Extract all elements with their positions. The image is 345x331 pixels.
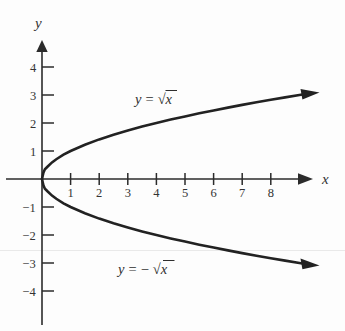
- y-tick-label-2: 2: [30, 117, 36, 131]
- y-axis-label: y: [33, 15, 42, 31]
- x-tick-label-4: 4: [153, 186, 160, 200]
- annotation-upper-equals: =: [145, 91, 153, 107]
- y-tick-label-neg3: −3: [22, 257, 35, 271]
- annotation-upper-lhs: y: [133, 91, 142, 107]
- y-tick-label-4: 4: [30, 61, 37, 75]
- annotation-lower-sign: −: [141, 261, 149, 277]
- x-tick-labels-group: 1 2 3 4 5 6 7 8: [67, 186, 273, 200]
- x-tick-label-1: 1: [67, 186, 73, 200]
- annotation-lower-radicand: x: [160, 261, 168, 277]
- x-tick-label-5: 5: [182, 186, 188, 200]
- x-tick-label-7: 7: [239, 186, 245, 200]
- y-tick-label-neg1: −1: [22, 201, 35, 215]
- curve-lower-arrowhead: [301, 259, 320, 270]
- annotation-lower-equation: y=−√x: [116, 261, 168, 277]
- y-tick-label-neg2: −2: [22, 229, 35, 243]
- annotation-upper-radical: √: [158, 91, 166, 107]
- x-tick-label-8: 8: [268, 186, 274, 200]
- x-axis-label: x: [321, 171, 329, 187]
- x-tick-label-6: 6: [210, 186, 216, 200]
- x-tick-label-2: 2: [96, 186, 102, 200]
- curve-lower-group: [42, 179, 320, 269]
- axes-group: [6, 40, 313, 325]
- y-tick-label-3: 3: [30, 89, 36, 103]
- annotation-lower-group: y=−√x: [116, 261, 175, 278]
- curve-upper-group: [42, 89, 320, 179]
- curve-upper-arrowhead: [301, 89, 320, 100]
- annotation-lower-lhs: y: [116, 261, 125, 277]
- y-tick-label-1: 1: [30, 145, 36, 159]
- annotation-upper-radicand: x: [165, 91, 173, 107]
- annotation-upper-equation: y=√x: [133, 91, 173, 107]
- y-axis-arrowhead: [36, 40, 47, 52]
- graph-canvas: 1 2 3 4 5 6 7 8 4 3 2 1 −1 −2 −3: [0, 0, 345, 331]
- y-tick-label-neg4: −4: [22, 285, 36, 299]
- curve-upper-sqrt: [42, 94, 307, 179]
- square-root-graph-figure: 1 2 3 4 5 6 7 8 4 3 2 1 −1 −2 −3: [0, 0, 345, 331]
- annotation-lower-radical: √: [153, 261, 161, 277]
- annotation-upper-group: y=√x: [133, 91, 177, 108]
- annotation-lower-equals: =: [128, 261, 136, 277]
- x-axis-arrowhead: [298, 173, 313, 185]
- x-tick-label-3: 3: [125, 186, 131, 200]
